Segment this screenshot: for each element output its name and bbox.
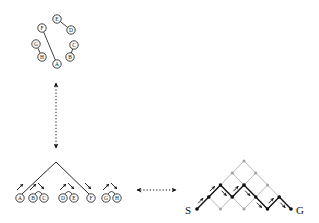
tree-leaf-h-label: H xyxy=(115,195,119,201)
edge-E-D xyxy=(60,22,67,28)
tree-arc-b-c xyxy=(35,192,42,195)
lattice-path-diagram: SG xyxy=(185,160,304,217)
lattice-path-node xyxy=(230,195,234,199)
tree-leaf-f-label: F xyxy=(89,195,92,201)
tree-branch-a xyxy=(22,162,56,194)
start-label: S xyxy=(185,204,191,216)
edge-C-B xyxy=(71,49,72,53)
lattice-node xyxy=(243,208,246,211)
circle-node-d-label: D xyxy=(69,27,73,33)
lattice-path-arrow xyxy=(222,191,227,196)
diagram-canvas: EDFGCHBA ABCDEFGH SG xyxy=(0,0,319,223)
edge-G-H xyxy=(38,48,40,53)
lattice-path-arrow xyxy=(269,198,274,203)
bidirectional-arrows xyxy=(56,83,176,190)
lattice-path-node xyxy=(219,183,223,187)
lattice-path-node xyxy=(266,207,270,211)
lattice-node xyxy=(243,160,246,163)
leaf-arrow-up-g xyxy=(103,184,109,190)
tree-leaf-c-label: C xyxy=(42,195,46,201)
circle-node-b-label: B xyxy=(68,54,72,60)
lattice-node xyxy=(231,172,234,175)
lattice-path-node xyxy=(277,195,281,199)
lattice-node xyxy=(254,172,257,175)
leaf-arrow-down-f xyxy=(85,183,91,189)
lattice-path-arrow xyxy=(210,186,215,191)
lattice-path-arrow xyxy=(245,191,250,196)
circle-node-c-label: C xyxy=(72,42,76,48)
leaf-arrow-down-h xyxy=(111,183,117,189)
tree-arc-g-h xyxy=(108,192,115,195)
tree-leaf-d-label: D xyxy=(61,195,65,201)
tree-leaf-g-label: G xyxy=(104,195,108,201)
lattice-path-arrow xyxy=(198,198,203,203)
lattice-path-node xyxy=(242,183,246,187)
tree-leaf-b-label: B xyxy=(31,195,35,201)
leaf-arrow-up-b xyxy=(30,184,36,190)
lattice-path-node xyxy=(207,195,211,199)
lattice-path-node xyxy=(254,195,258,199)
leaf-arrow-down-e xyxy=(68,183,74,189)
circle-node-f-label: F xyxy=(40,25,43,31)
lattice-node xyxy=(219,208,222,211)
leaf-arrow-up-a xyxy=(17,184,23,190)
leaf-arrow-up-d xyxy=(60,184,66,190)
tree-arc-d-e xyxy=(65,192,72,195)
lattice-path-arrow xyxy=(280,203,285,208)
leaf-arrow-down-c xyxy=(38,183,44,189)
circle-node-a-label: A xyxy=(55,61,59,67)
lattice-path-arrow xyxy=(233,186,238,191)
lattice-node xyxy=(266,184,269,187)
lattice-grid-line xyxy=(209,197,221,209)
lattice-path-arrow xyxy=(257,203,262,208)
circle-permutation-diagram: EDFGCHBA xyxy=(32,15,78,68)
circle-node-h-label: H xyxy=(40,54,44,60)
lattice-path-node xyxy=(289,207,293,211)
goal-label: G xyxy=(296,204,304,216)
circle-node-g-label: G xyxy=(34,41,38,47)
lattice-path-node xyxy=(195,207,199,211)
tree-leaf-a-label: A xyxy=(18,195,22,201)
tree-arc-diagram: ABCDEFGH xyxy=(16,162,121,202)
